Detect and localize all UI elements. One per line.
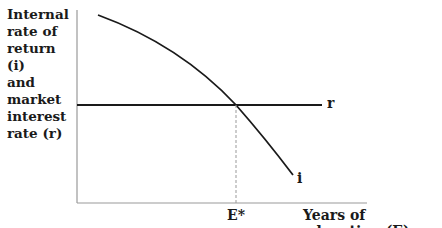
diagram-canvas <box>0 0 442 228</box>
equilibrium-label: E* <box>227 207 245 223</box>
x-axis-label: Years of education (E) <box>303 207 442 228</box>
r-curve-label: r <box>327 95 334 111</box>
internal-rate-curve-i <box>98 15 293 175</box>
i-curve-label: i <box>297 170 302 186</box>
